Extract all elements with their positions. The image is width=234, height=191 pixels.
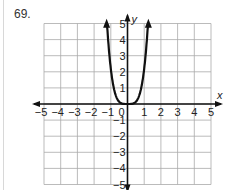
- x-tick-label: 1: [141, 106, 147, 118]
- x-tick-label: −2: [85, 106, 98, 118]
- y-tick-label: −2: [113, 130, 126, 142]
- x-tick-label: 5: [208, 106, 214, 118]
- y-tick-label: −3: [113, 146, 126, 158]
- y-tick-label: 1: [119, 82, 125, 94]
- y-tick-label: 3: [119, 50, 125, 62]
- y-tick-label: −5: [113, 179, 126, 191]
- x-axis-right-arrow-icon: [215, 101, 223, 107]
- x-tick-label: 2: [158, 106, 164, 118]
- x-tick-label: 3: [175, 106, 181, 118]
- x-tick-label: −5: [35, 106, 48, 118]
- x-tick-label: 4: [191, 106, 197, 118]
- y-tick-label: 4: [119, 34, 125, 46]
- y-tick-label: 2: [119, 66, 125, 78]
- y-tick-label: −4: [113, 162, 126, 174]
- x-tick-label: −4: [51, 106, 64, 118]
- y-tick-label: 5: [119, 18, 125, 30]
- x-axis-label: x: [216, 89, 223, 101]
- x-tick-label: −3: [68, 106, 81, 118]
- y-tick-label: −1: [113, 114, 126, 126]
- coordinate-graph: xy −5−4−3−2−101234554321−1−2−3−4−5: [0, 0, 234, 190]
- y-axis-label: y: [131, 13, 139, 25]
